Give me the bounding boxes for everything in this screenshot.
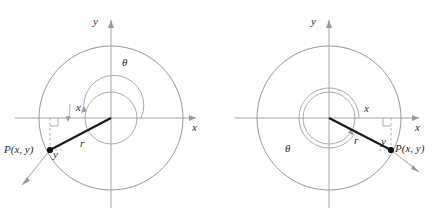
angle-arc-arrow-icon [81, 105, 87, 113]
radius-label: r [80, 137, 85, 149]
polar-diagram-right: y x θ x y r P(x, y) [223, 0, 445, 224]
angle-label: θ [285, 142, 291, 154]
y-axis-label: y [310, 15, 316, 27]
x-axis-label: x [191, 121, 197, 133]
terminal-ray-arrow-icon [411, 165, 419, 172]
y-leg-label: y [380, 135, 386, 147]
point-label: P(x, y) [3, 143, 34, 156]
terminal-ray-arrow-icon [22, 177, 30, 185]
left-diagram-svg: y x θ x y r P(x, y) [0, 0, 222, 224]
angle-arc [84, 75, 144, 118]
figure-canvas: y x θ x y r P(x, y) [0, 0, 445, 224]
y-leg-label: y [52, 148, 58, 160]
x-leg-label: x [363, 102, 369, 114]
right-diagram-svg: y x θ x y r P(x, y) [223, 0, 445, 224]
y-axis-arrow-icon [108, 20, 114, 28]
right-angle-marker [50, 118, 58, 126]
point-label: P(x, y) [394, 142, 425, 155]
x-leg-label: x [75, 101, 81, 113]
point-marker [388, 147, 394, 153]
y-axis-label: y [92, 15, 98, 27]
y-axis-arrow-icon [326, 20, 332, 28]
radius-label: r [354, 134, 359, 146]
angle-label: θ [122, 56, 128, 68]
polar-diagram-left: y x θ x y r P(x, y) [0, 0, 222, 224]
x-axis-label: x [414, 121, 420, 133]
right-angle-marker [383, 118, 391, 126]
x-leg-pointer-arrow-icon [66, 116, 71, 122]
